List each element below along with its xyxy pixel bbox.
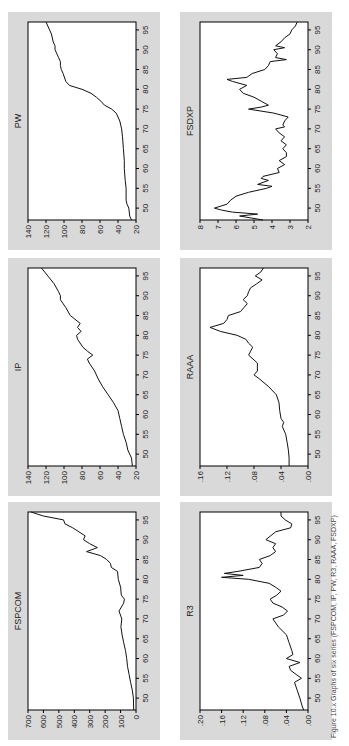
- x-tick-label: 95: [141, 25, 150, 34]
- y-tick-label: 600: [39, 714, 48, 728]
- x-tick-label: 55: [141, 429, 150, 438]
- x-tick-label: 85: [313, 555, 322, 564]
- y-tick-label: 140: [24, 470, 33, 484]
- x-tick-label: 85: [141, 65, 150, 74]
- x-tick-label: 55: [141, 183, 150, 192]
- x-tick-label: 80: [141, 84, 150, 93]
- chart-title: PW: [13, 113, 23, 128]
- x-tick-label: 85: [313, 65, 322, 74]
- x-tick-label: 95: [141, 515, 150, 524]
- y-tick-label: .12: [239, 714, 248, 726]
- chart-panel-r3: R350556065707580859095.00.04.08.12.16.20: [180, 502, 332, 740]
- x-tick-label: 85: [141, 555, 150, 564]
- x-tick-label: 90: [141, 535, 150, 544]
- chart-panel-pw: PW5055606570758085909520406080100120140: [8, 12, 160, 250]
- x-tick-label: 65: [141, 634, 150, 643]
- x-tick-label: 60: [141, 654, 150, 663]
- x-tick-label: 70: [313, 614, 322, 623]
- x-tick-label: 70: [141, 370, 150, 379]
- x-tick-label: 95: [313, 515, 322, 524]
- x-tick-label: 75: [141, 594, 150, 603]
- x-tick-label: 60: [141, 410, 150, 419]
- y-tick-label: 6: [232, 224, 241, 229]
- y-tick-label: 500: [55, 714, 64, 728]
- x-tick-label: 90: [141, 45, 150, 54]
- x-tick-label: 70: [141, 614, 150, 623]
- x-tick-label: 60: [141, 164, 150, 173]
- x-tick-label: 80: [141, 574, 150, 583]
- y-tick-label: 3: [286, 224, 295, 229]
- x-tick-label: 50: [313, 693, 322, 702]
- x-tick-label: 60: [313, 410, 322, 419]
- x-tick-label: 95: [313, 25, 322, 34]
- y-tick-label: 8: [196, 224, 205, 229]
- x-tick-label: 70: [141, 124, 150, 133]
- y-tick-label: 120: [42, 470, 51, 484]
- y-tick-label: 200: [101, 714, 110, 728]
- x-tick-label: 95: [141, 271, 150, 280]
- chart-title: FSPCOM: [13, 592, 23, 631]
- y-tick-label: .20: [196, 714, 205, 726]
- x-tick-label: 75: [313, 350, 322, 359]
- y-tick-label: 7: [214, 224, 223, 229]
- x-tick-label: 65: [313, 634, 322, 643]
- chart-panel-fspcom: FSPCOM5055606570758085909501002003004005…: [8, 502, 160, 740]
- y-tick-label: 0: [132, 714, 141, 719]
- chart-panel-ip: IP5055606570758085909520406080100120140: [8, 258, 160, 496]
- x-tick-label: 55: [313, 429, 322, 438]
- y-tick-label: .08: [250, 470, 259, 482]
- x-tick-label: 55: [313, 673, 322, 682]
- x-tick-label: 50: [141, 449, 150, 458]
- chart-title: FSDXP: [185, 106, 195, 136]
- y-tick-label: 40: [114, 224, 123, 233]
- y-tick-label: 4: [268, 224, 277, 229]
- x-tick-label: 50: [141, 693, 150, 702]
- x-tick-label: 95: [313, 271, 322, 280]
- x-tick-label: 80: [141, 330, 150, 339]
- x-tick-label: 65: [313, 390, 322, 399]
- x-tick-label: 50: [313, 203, 322, 212]
- y-tick-label: 20: [132, 470, 141, 479]
- y-tick-label: .00: [304, 714, 313, 726]
- x-tick-label: 75: [141, 350, 150, 359]
- y-tick-label: 100: [117, 714, 126, 728]
- x-tick-label: 80: [313, 330, 322, 339]
- y-tick-label: 100: [60, 470, 69, 484]
- y-tick-label: 700: [24, 714, 33, 728]
- x-tick-label: 50: [141, 203, 150, 212]
- x-tick-label: 70: [313, 370, 322, 379]
- x-tick-label: 90: [313, 45, 322, 54]
- y-tick-label: 80: [78, 470, 87, 479]
- y-tick-label: 20: [132, 224, 141, 233]
- rotated-figure-page: FSPCOM5055606570758085909501002003004005…: [0, 0, 349, 746]
- figure-caption: Figure 10.x Graphs of six series (FSPCOM…: [330, 515, 337, 738]
- x-tick-label: 65: [141, 390, 150, 399]
- y-tick-label: 5: [250, 224, 259, 229]
- chart-title: R3: [185, 605, 195, 617]
- x-tick-label: 90: [313, 535, 322, 544]
- x-tick-label: 55: [313, 183, 322, 192]
- x-tick-label: 80: [313, 84, 322, 93]
- y-tick-label: 400: [70, 714, 79, 728]
- y-tick-label: 100: [60, 224, 69, 238]
- y-tick-label: 120: [42, 224, 51, 238]
- x-tick-label: 65: [141, 144, 150, 153]
- y-tick-label: .08: [261, 714, 270, 726]
- y-tick-label: 140: [24, 224, 33, 238]
- y-tick-label: .16: [218, 714, 227, 726]
- x-tick-label: 85: [141, 311, 150, 320]
- chart-panel-fsdxp: FSDXP505560657075808590952345678: [180, 12, 332, 250]
- y-tick-label: 300: [86, 714, 95, 728]
- x-tick-label: 60: [313, 164, 322, 173]
- x-tick-label: 75: [313, 594, 322, 603]
- x-tick-label: 55: [141, 673, 150, 682]
- x-tick-label: 50: [313, 449, 322, 458]
- y-tick-label: 40: [114, 470, 123, 479]
- y-tick-label: .04: [282, 714, 291, 726]
- x-tick-label: 90: [313, 291, 322, 300]
- y-tick-label: .12: [223, 470, 232, 482]
- x-tick-label: 75: [313, 104, 322, 113]
- y-tick-label: .04: [277, 470, 286, 482]
- y-tick-label: 60: [96, 224, 105, 233]
- x-tick-label: 65: [313, 144, 322, 153]
